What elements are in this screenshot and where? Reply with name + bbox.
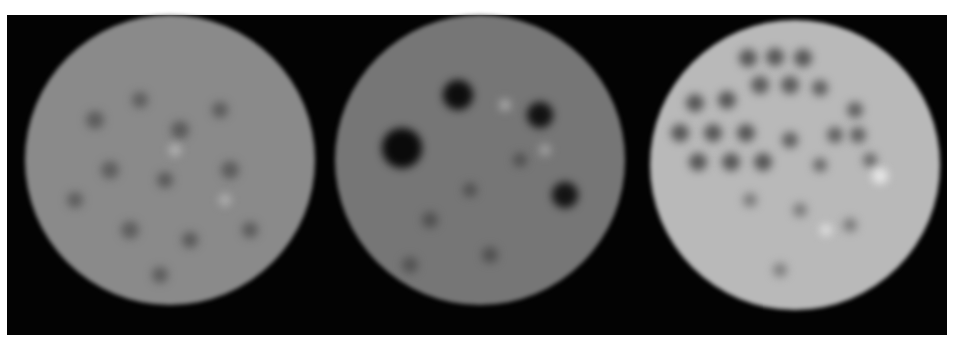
phantom-spot bbox=[513, 153, 527, 167]
phantom-spot bbox=[482, 247, 498, 263]
phantom-spot bbox=[101, 161, 119, 179]
phantom-spot bbox=[552, 182, 578, 208]
phantom-2-disc bbox=[335, 15, 625, 305]
phantom-spot bbox=[527, 102, 553, 128]
phantom-spot bbox=[463, 183, 477, 197]
phantom-spot bbox=[157, 172, 173, 188]
phantom-spot bbox=[704, 124, 722, 142]
phantom-spot bbox=[443, 80, 473, 110]
phantom-spot bbox=[773, 263, 787, 277]
phantom-spot bbox=[739, 49, 757, 67]
phantom-spot bbox=[132, 92, 148, 108]
phantom-spot bbox=[121, 221, 139, 239]
phantom-spot bbox=[781, 76, 799, 94]
phantom-spot bbox=[422, 212, 438, 228]
phantom-spot bbox=[212, 102, 228, 118]
phantom-spot bbox=[863, 153, 877, 167]
phantom-spot bbox=[689, 153, 707, 171]
phantom-spot bbox=[718, 91, 736, 109]
phantom-spot bbox=[794, 49, 812, 67]
phantom-spot bbox=[843, 218, 857, 232]
phantom-spot bbox=[751, 76, 769, 94]
phantom-spot bbox=[671, 124, 689, 142]
phantom-spot bbox=[152, 267, 168, 283]
phantom-spot bbox=[847, 102, 863, 118]
phantom-spot bbox=[67, 192, 83, 208]
phantom-spot bbox=[686, 94, 704, 112]
phantom-1-disc bbox=[25, 15, 315, 305]
phantom-spot bbox=[182, 232, 198, 248]
phantom-spot bbox=[813, 158, 827, 172]
phantom-spot bbox=[722, 153, 740, 171]
phantom-spot bbox=[539, 144, 551, 156]
phantom-spot bbox=[171, 121, 189, 139]
phantom-spot bbox=[499, 99, 511, 111]
phantom-spot bbox=[793, 203, 807, 217]
phantom-spot bbox=[850, 127, 866, 143]
phantom-spot bbox=[782, 132, 798, 148]
phantom-spot bbox=[221, 161, 239, 179]
phantom-spot bbox=[754, 153, 772, 171]
phantom-spot bbox=[827, 127, 843, 143]
phantom-spot bbox=[820, 224, 832, 236]
phantom-spot bbox=[872, 168, 888, 184]
phantom-spot bbox=[86, 111, 104, 129]
phantom-spot bbox=[219, 194, 231, 206]
phantom-spot bbox=[169, 144, 181, 156]
phantom-spot bbox=[743, 193, 757, 207]
phantom-spot bbox=[737, 124, 755, 142]
phantom-spot bbox=[242, 222, 258, 238]
phantom-spot bbox=[766, 48, 784, 66]
image-panel bbox=[7, 15, 947, 335]
phantom-spot bbox=[402, 257, 418, 273]
phantom-spot bbox=[382, 128, 422, 168]
phantom-spot bbox=[812, 80, 828, 96]
